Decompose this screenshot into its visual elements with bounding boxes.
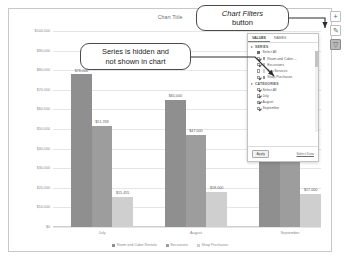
scrollbar-thumb[interactable] bbox=[315, 51, 319, 67]
filter-pane-scrollbar[interactable] bbox=[315, 51, 319, 132]
y-axis-tick-label: $40,000 bbox=[37, 147, 50, 151]
y-axis-tick-label: $50,000 bbox=[37, 127, 50, 131]
bar-data-label: $51,769 bbox=[95, 120, 108, 124]
y-axis-tick-label: $90,000 bbox=[37, 49, 50, 53]
callout-chart-filters: Chart Filters button bbox=[196, 5, 289, 31]
checkbox[interactable] bbox=[257, 51, 260, 54]
filter-pane-tabs[interactable]: VALUES NAMES bbox=[248, 34, 318, 43]
legend-label: Excursions bbox=[170, 243, 188, 247]
select-data-link[interactable]: Select Data bbox=[296, 152, 314, 156]
bar-data-label: $65,000 bbox=[169, 94, 182, 98]
filter-pane-body[interactable]: SERIES Select AllRoom and Cabin ...Excur… bbox=[248, 43, 318, 147]
legend-swatch-icon bbox=[197, 244, 200, 247]
category-filter-label: July bbox=[263, 94, 269, 98]
category-filter-label: August bbox=[263, 100, 274, 104]
series-group-label: SERIES bbox=[255, 45, 268, 49]
category-filter-label: Select All bbox=[263, 88, 277, 92]
categories-group-label: CATEGORIES bbox=[255, 82, 279, 86]
filter-pane-footer: Apply Select Data bbox=[248, 146, 318, 161]
y-axis-tick-label: $100,000 bbox=[35, 29, 50, 33]
bar[interactable]: $15,455 bbox=[112, 197, 133, 227]
series-filter-label: Select All bbox=[263, 50, 277, 54]
bar[interactable]: $18,000 bbox=[206, 192, 227, 227]
series-filter-label: Excursions bbox=[267, 63, 284, 67]
category-filter-label: September bbox=[263, 106, 280, 110]
chevron-right-icon bbox=[251, 46, 253, 48]
x-axis-label-september: September bbox=[280, 230, 299, 235]
chart-filters-pane[interactable]: VALUES NAMES SERIES Select AllRoom and C… bbox=[247, 33, 319, 162]
callout-filters-text: Chart Filters button bbox=[222, 9, 263, 28]
checkbox[interactable] bbox=[257, 69, 260, 72]
legend-label: Room and Cabin Rentals bbox=[117, 243, 157, 247]
series-color-swatch-icon bbox=[263, 57, 265, 60]
y-axis-tick-label: $30,000 bbox=[37, 166, 50, 170]
checkbox[interactable] bbox=[257, 101, 260, 104]
tab-names[interactable]: NAMES bbox=[270, 34, 290, 42]
bar[interactable]: $65,000 bbox=[165, 100, 186, 227]
gridline bbox=[53, 227, 321, 228]
checkbox[interactable] bbox=[257, 107, 260, 110]
apply-button[interactable]: Apply bbox=[252, 150, 269, 158]
series-color-swatch-icon bbox=[263, 63, 265, 66]
screenshot-root: Chart Title July August September $100,0… bbox=[0, 0, 347, 265]
bar-data-label: $18,000 bbox=[210, 186, 223, 190]
checkbox[interactable] bbox=[257, 63, 260, 66]
y-axis-tick-label: $70,000 bbox=[37, 88, 50, 92]
callout-series-hidden: Series is hidden and not shown in chart bbox=[80, 43, 191, 70]
y-axis-tick-label: $20,000 bbox=[37, 186, 50, 190]
y-axis-tick-label: $0 bbox=[46, 225, 50, 229]
checkbox[interactable] bbox=[257, 88, 260, 91]
series-color-swatch-icon bbox=[263, 69, 265, 72]
legend-label: Shop Purchases bbox=[202, 243, 228, 247]
bar[interactable]: $47,000 bbox=[186, 135, 207, 227]
series-filter-label: Shop Purchases bbox=[267, 75, 292, 79]
bar[interactable]: $17,000 bbox=[300, 194, 321, 227]
y-axis-tick-label: $10,000 bbox=[37, 205, 50, 209]
callout-series-text: Series is hidden and not shown in chart bbox=[102, 47, 169, 66]
tab-values[interactable]: VALUES bbox=[248, 34, 270, 42]
y-axis-tick-label: $80,000 bbox=[37, 68, 50, 72]
series-filter-label: Spa Services bbox=[267, 69, 287, 73]
y-axis-tick-label: $60,000 bbox=[37, 107, 50, 111]
bar-data-label: $17,000 bbox=[304, 188, 317, 192]
chart-legend[interactable]: Room and Cabin Rentals Excursions Shop P… bbox=[9, 243, 331, 247]
checkbox[interactable] bbox=[257, 94, 260, 97]
x-axis-label-july: July bbox=[99, 230, 106, 235]
legend-swatch-icon bbox=[112, 244, 115, 247]
checkbox[interactable] bbox=[257, 76, 260, 79]
x-axis-label-august: August bbox=[190, 230, 202, 235]
bar-data-label: $47,000 bbox=[189, 129, 202, 133]
bar[interactable]: $78,000 bbox=[71, 74, 92, 227]
series-color-swatch-icon bbox=[263, 76, 265, 79]
bar-group[interactable]: $78,000$51,769$15,455 bbox=[71, 74, 133, 227]
checkbox[interactable] bbox=[257, 57, 260, 60]
bar[interactable]: $51,769 bbox=[92, 126, 113, 227]
chart-styles-icon[interactable]: ✎ bbox=[330, 25, 341, 36]
legend-swatch-icon bbox=[166, 244, 169, 247]
chart-filters-icon[interactable]: ▽ bbox=[330, 39, 341, 50]
legend-item-room-and-cabin-rentals[interactable]: Room and Cabin Rentals bbox=[112, 243, 157, 247]
bar-data-label: $15,455 bbox=[116, 191, 129, 195]
series-filter-label: Room and Cabin ... bbox=[267, 57, 296, 61]
legend-item-excursions[interactable]: Excursions bbox=[166, 243, 188, 247]
bar-group[interactable]: $65,000$47,000$18,000 bbox=[165, 100, 227, 227]
legend-item-shop-purchases[interactable]: Shop Purchases bbox=[197, 243, 228, 247]
chart-side-buttons[interactable]: + ✎ ▽ bbox=[330, 11, 341, 50]
chevron-right-icon bbox=[251, 83, 253, 85]
chart-elements-icon[interactable]: + bbox=[330, 11, 341, 22]
category-filter-row[interactable]: September bbox=[248, 105, 318, 111]
gridline bbox=[53, 31, 321, 32]
